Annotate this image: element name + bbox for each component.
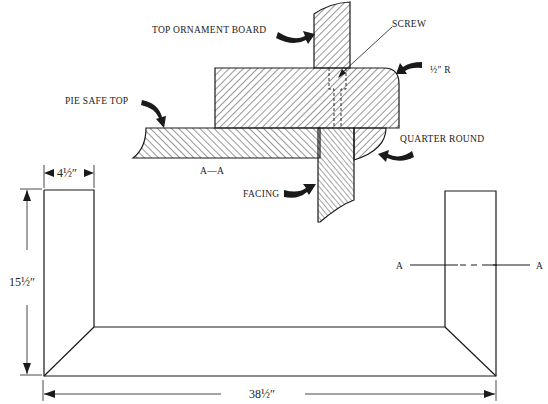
section-mark-left: A [396, 261, 403, 271]
label-section-aa: A—A [200, 166, 224, 176]
outer-outline [44, 190, 496, 376]
right-miter [445, 327, 496, 376]
top-ornament-board [314, 2, 350, 68]
left-miter [44, 327, 94, 376]
dimension-length-label: 38½″ [249, 387, 275, 401]
facing-board [318, 128, 354, 222]
ornament-block [215, 68, 399, 128]
label-radius: ½″ R [430, 65, 451, 75]
label-quarter-round: QUARTER ROUND [400, 134, 484, 144]
arrow-quarter-round-icon [378, 150, 414, 162]
dimension-width-label: 4½″ [57, 166, 77, 180]
pie-safe-top-ornament-diagram: TOP ORNAMENT BOARD SCREW ½″ R PIE SAFE T… [0, 0, 548, 404]
section-mark-right: A [536, 261, 543, 271]
pie-safe-top-board [133, 128, 320, 158]
label-facing: FACING [243, 189, 279, 199]
dimension-height-label: 15½″ [9, 275, 35, 289]
arrow-top-ornament-icon [276, 31, 315, 44]
arrow-radius-icon [396, 62, 422, 74]
left-side-panel [44, 190, 94, 327]
label-pie-safe-top: PIE SAFE TOP [65, 96, 128, 106]
label-top-ornament-board: TOP ORNAMENT BOARD [152, 25, 267, 35]
plan-view [44, 190, 496, 376]
label-screw: SCREW [392, 19, 426, 29]
arrow-pie-safe-top-icon [141, 100, 166, 128]
arrow-facing-icon [284, 184, 316, 198]
